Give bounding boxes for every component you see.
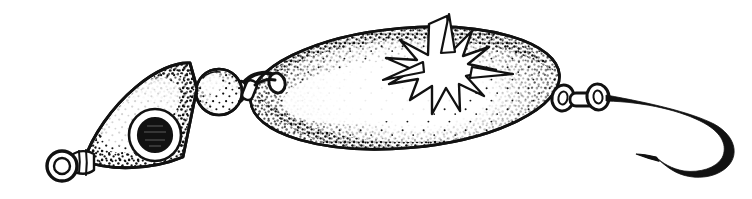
rear-ring-right-hole bbox=[593, 90, 604, 104]
lure-eye-group bbox=[128, 108, 182, 162]
tow-eye-inner-hole bbox=[54, 158, 70, 174]
fishing-lure-illustration bbox=[0, 0, 752, 199]
eye-pupil bbox=[138, 118, 172, 152]
collar-rib-1 bbox=[79, 151, 80, 173]
tow-eye-ring-group bbox=[47, 151, 77, 181]
collar-rib-2 bbox=[86, 150, 87, 175]
illustration-canvas: Fishing Lure Line Drawing Black and whit… bbox=[0, 0, 752, 199]
